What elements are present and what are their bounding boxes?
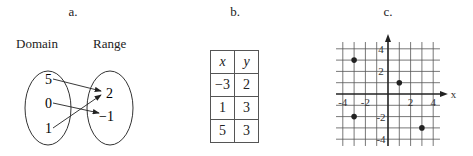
panel-c-label: c.: [373, 4, 403, 20]
x-axis-label: x: [451, 88, 457, 100]
y-tick-label: -4: [376, 133, 386, 145]
data-point: [397, 80, 403, 86]
mapping-diagram: 5 0 1 2 −1: [0, 0, 160, 156]
table-cell: 1: [211, 97, 235, 120]
domain-value: 0: [45, 96, 52, 111]
data-point: [419, 125, 425, 131]
table-cell: 5: [211, 120, 235, 143]
data-point: [351, 57, 357, 63]
y-tick-label: 2: [378, 65, 384, 77]
domain-value: 1: [45, 121, 52, 136]
coordinate-graph: x-4-22442-2-4: [330, 30, 473, 156]
x-tick-label: 4: [430, 96, 436, 108]
panel-b-label: b.: [220, 4, 250, 20]
y-tick-label: -2: [376, 111, 385, 123]
table-header: x: [211, 51, 235, 74]
x-tick-label: -2: [361, 96, 370, 108]
data-point: [351, 114, 357, 120]
table-cell: −3: [211, 74, 235, 97]
table-cell: 3: [235, 120, 259, 143]
x-arrow-icon: [440, 91, 448, 97]
range-value: 2: [106, 86, 113, 101]
table-header: y: [235, 51, 259, 74]
table-row: −3 2: [211, 74, 259, 97]
table-row: 5 3: [211, 120, 259, 143]
x-tick-label: 2: [408, 96, 414, 108]
mapping-arrow: [53, 79, 101, 91]
range-oval: [87, 71, 133, 145]
domain-value: 5: [45, 72, 52, 87]
table-cell: 2: [235, 74, 259, 97]
table-row: 1 3: [211, 97, 259, 120]
y-tick-label: 4: [378, 43, 384, 55]
x-tick-label: -4: [338, 96, 348, 108]
mapping-arrow: [53, 103, 99, 113]
xy-table: x y −3 2 1 3 5 3: [210, 50, 259, 143]
table-cell: 3: [235, 97, 259, 120]
y-arrow-icon: [385, 34, 391, 42]
range-value: −1: [99, 109, 114, 124]
